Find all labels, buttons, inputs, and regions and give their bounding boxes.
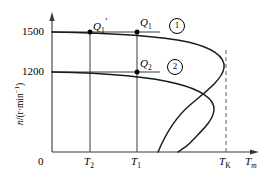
x-tick-tk-subscript: K bbox=[225, 161, 230, 170]
y-axis-title-unit-open: /(r·min bbox=[15, 93, 25, 120]
x-tick-t1-subscript: 1 bbox=[137, 161, 141, 170]
point-q1-prime bbox=[88, 30, 93, 35]
label-q2-subscript: 2 bbox=[148, 63, 152, 72]
point-q2 bbox=[135, 70, 140, 75]
x-origin-label: 0 bbox=[38, 156, 44, 167]
point-q1 bbox=[135, 30, 140, 35]
x-axis-title-subscript: m bbox=[251, 161, 256, 170]
label-q1-prime: Q1′ bbox=[93, 17, 107, 34]
y-axis-title-symbol: n bbox=[15, 120, 25, 125]
x-tick-label-tk: TK bbox=[219, 156, 231, 170]
y-tick-label-1500: 1500 bbox=[22, 26, 44, 37]
figure-canvas: 1500 1200 n/(r·min−1) 0 T2 T1 TK Tm Q1′ … bbox=[0, 0, 265, 180]
y-tick-label-1200: 1200 bbox=[22, 66, 44, 77]
label-q2-letter: Q bbox=[140, 57, 148, 69]
x-axis bbox=[52, 149, 259, 154]
label-q1-prime-subscript: 1 bbox=[101, 26, 105, 35]
y-axis-title-unit-close: ) bbox=[15, 83, 25, 86]
curve-marker-2: 2 bbox=[167, 59, 183, 75]
label-q1-prime-mark: ′ bbox=[105, 16, 107, 27]
y-axis bbox=[49, 12, 54, 152]
x-axis-title: Tm bbox=[245, 156, 257, 170]
x-tick-label-t2: T2 bbox=[84, 156, 94, 170]
y-axis-title: n/(r·min−1) bbox=[13, 83, 25, 125]
x-tick-t2-subscript: 2 bbox=[90, 161, 94, 170]
label-q1-letter: Q bbox=[140, 16, 148, 28]
label-q1: Q1 bbox=[140, 17, 152, 31]
label-q1-prime-letter: Q bbox=[93, 20, 101, 32]
x-tick-label-t1: T1 bbox=[131, 156, 141, 170]
curve-series-2 bbox=[52, 72, 214, 152]
label-q1-subscript: 1 bbox=[148, 22, 152, 31]
curve-marker-1: 1 bbox=[169, 18, 185, 34]
y-axis-title-unit-exponent: −1 bbox=[13, 86, 21, 93]
label-q2: Q2 bbox=[140, 58, 152, 72]
